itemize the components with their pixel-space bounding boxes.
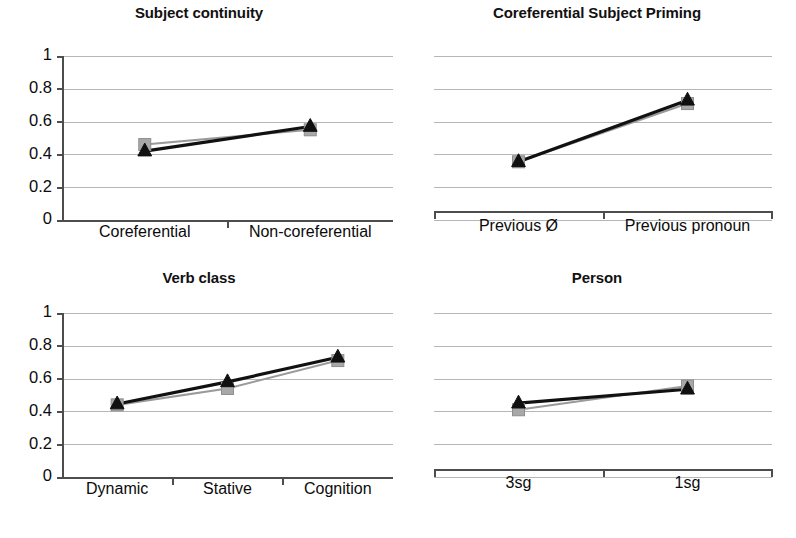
axes — [434, 469, 772, 477]
gridlines — [434, 57, 772, 221]
chart-panel-subject-continuity: Subject continuity 00.20.40.60.81Corefer… — [0, 4, 398, 269]
x-axis-category-label: 1sg — [675, 474, 701, 491]
y-axis-tick-label: 0.6 — [29, 111, 52, 129]
y-axis-tick-label: 0.2 — [29, 177, 52, 195]
series-line-square — [519, 386, 688, 410]
x-axis-category-label: Cognition — [304, 480, 372, 497]
figure-canvas: Subject continuity 00.20.40.60.81Corefer… — [0, 0, 796, 538]
plot-area: 00.20.40.60.81CoreferentialNon-coreferen… — [0, 4, 398, 269]
chart-panel-person: Person 3sg1sg — [398, 269, 796, 538]
x-axis-category-label: 3sg — [506, 474, 532, 491]
plot-area: 3sg1sg — [398, 269, 796, 538]
y-axis-tick-label: 0 — [43, 466, 52, 484]
series-lines — [519, 100, 688, 162]
plot-area: 00.20.40.60.81DynamicStativeCognition — [0, 269, 398, 538]
axes — [57, 56, 393, 228]
series-line-triangle — [519, 100, 688, 162]
x-axis-category-label: Previous pronoun — [625, 217, 750, 234]
y-axis-tick-label: 0.6 — [29, 368, 52, 386]
y-axis-tick-label: 0.4 — [29, 401, 52, 419]
x-axis-category-label: Previous Ø — [479, 217, 558, 234]
axes — [57, 313, 393, 485]
y-axis-tick-labels: 00.20.40.60.81 — [29, 45, 52, 227]
series-line-triangle — [145, 127, 311, 152]
y-axis-tick-label: 0 — [43, 209, 52, 227]
y-axis-tick-label: 1 — [43, 45, 52, 63]
series-lines — [145, 127, 311, 152]
y-axis-tick-labels: 00.20.40.60.81 — [29, 302, 52, 484]
x-axis-category-labels: DynamicStativeCognition — [86, 480, 372, 497]
x-axis-category-labels: CoreferentialNon-coreferential — [99, 223, 372, 240]
x-axis-category-labels: Previous ØPrevious pronoun — [479, 217, 750, 234]
series-lines — [519, 386, 688, 410]
y-axis-tick-label: 0.8 — [29, 78, 52, 96]
x-axis-category-label: Stative — [203, 480, 252, 497]
x-axis-category-label: Dynamic — [86, 480, 148, 497]
plot-area: Previous ØPrevious pronoun — [398, 4, 796, 269]
gridlines — [62, 57, 393, 188]
chart-panel-coreferential-subject-priming: Coreferential Subject Priming Previous Ø… — [398, 4, 796, 269]
series-line-square — [145, 130, 311, 145]
y-axis-tick-label: 0.8 — [29, 335, 52, 353]
series-line-triangle — [519, 389, 688, 403]
chart-panel-verb-class: Verb class 00.20.40.60.81DynamicStativeC… — [0, 269, 398, 538]
y-axis-tick-label: 1 — [43, 302, 52, 320]
x-axis-category-label: Coreferential — [99, 223, 191, 240]
y-axis-tick-label: 0.4 — [29, 144, 52, 162]
y-axis-tick-label: 0.2 — [29, 434, 52, 452]
x-axis-category-label: Non-coreferential — [249, 223, 372, 240]
